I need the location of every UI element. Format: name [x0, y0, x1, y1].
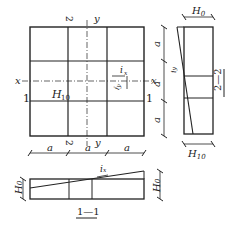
ix-label: i	[120, 65, 123, 75]
section22-h10-label: H10	[187, 148, 206, 161]
axis-x-left-label: x	[15, 75, 21, 86]
section11-h0-left: H0	[13, 180, 24, 195]
ix-sub: x	[124, 69, 128, 76]
section22-h0-label: H0	[191, 5, 206, 18]
section-1-right-label: 1	[146, 92, 153, 105]
drainage-slope-diagram: 2 y x x 1 1 H 10 i x iy 2 y a a a a a a …	[0, 0, 229, 226]
section11-ix-label: ix	[100, 164, 107, 174]
axis-y-top-label: y	[93, 13, 100, 24]
section-1-left-label: 1	[23, 92, 30, 105]
dim-a-v1: a	[151, 41, 162, 47]
section-2-bottom-label: 2	[64, 140, 74, 146]
section-2-2-title: 2—2	[212, 68, 223, 91]
dim-a-2: a	[85, 142, 91, 153]
section11-h0-right: H0	[151, 178, 162, 193]
dim-a-v3: a	[151, 117, 162, 123]
iy-label: iy	[112, 82, 123, 91]
h10-sub: 10	[61, 94, 70, 102]
section22-iy-label: iy	[169, 66, 178, 73]
dim-a-3: a	[124, 142, 130, 153]
dim-a-1: a	[47, 142, 53, 153]
dim-a-v2: a	[151, 81, 162, 87]
section-1-1-title: 1—1	[77, 206, 100, 217]
axis-y-bottom-label: y	[94, 137, 101, 148]
section-2-top-label: 2	[64, 16, 74, 22]
